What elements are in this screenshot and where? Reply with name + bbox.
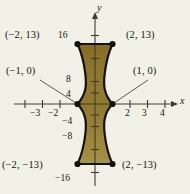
- y-axis-label: y: [97, 3, 102, 13]
- point-label-mid-right: (1, 0): [133, 66, 156, 77]
- point-label-top-left: (−2, 13): [5, 30, 40, 41]
- y-tick-label-16: 16: [58, 31, 68, 41]
- y-tick-label-neg16: −16: [55, 174, 70, 184]
- point-label-top-right: (2, 13): [126, 30, 155, 41]
- x-tick-label-neg2: −2: [48, 109, 58, 119]
- point-neg2-neg13: [74, 161, 80, 167]
- point-neg2-13: [74, 41, 80, 47]
- y-tick-label-8: 8: [66, 75, 71, 85]
- graph-figure: (−2, 13) (2, 13) (−1, 0) (1, 0) (−2, −13…: [0, 0, 190, 194]
- point-label-bottom-right: (2, −13): [122, 160, 157, 171]
- point-1-0: [109, 101, 115, 107]
- point-2-13: [109, 41, 115, 47]
- point-neg1-0: [74, 101, 80, 107]
- y-tick-label-neg8: −8: [62, 132, 72, 142]
- x-tick-label-neg3: −3: [30, 109, 40, 119]
- x-tick-label-4: 4: [160, 109, 165, 119]
- point-label-bottom-left: (−2, −13): [2, 160, 43, 171]
- x-tick-label-2: 2: [125, 109, 130, 119]
- x-tick-label-3: 3: [142, 109, 147, 119]
- y-tick-label-4: 4: [66, 90, 71, 100]
- point-label-mid-left: (−1, 0): [6, 66, 35, 77]
- y-tick-label-neg4: −4: [62, 117, 72, 127]
- point-2-neg13: [109, 161, 115, 167]
- leader-line-right: [114, 80, 148, 103]
- x-axis-label: x: [180, 96, 185, 106]
